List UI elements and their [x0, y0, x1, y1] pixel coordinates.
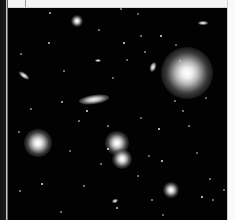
star — [144, 51, 146, 53]
star — [179, 60, 181, 62]
star-field — [8, 8, 227, 220]
star — [140, 35, 142, 37]
star — [116, 207, 118, 209]
star — [123, 42, 125, 44]
star — [182, 110, 184, 112]
star-glow — [163, 182, 179, 198]
star — [30, 108, 32, 110]
star — [49, 12, 51, 14]
star — [175, 44, 177, 46]
galaxy — [111, 198, 118, 204]
top-margin — [0, 0, 228, 8]
star — [18, 131, 20, 133]
margin-divider — [25, 0, 26, 7]
bright-star — [161, 47, 213, 99]
star — [98, 29, 100, 31]
star — [107, 125, 109, 127]
galaxy — [95, 59, 101, 62]
galaxy — [79, 92, 110, 105]
star — [60, 211, 62, 213]
star — [140, 117, 142, 119]
image-frame — [0, 0, 235, 220]
star — [126, 59, 128, 61]
star — [112, 77, 114, 79]
star — [48, 42, 50, 44]
star — [41, 183, 43, 185]
star — [196, 152, 198, 154]
star — [160, 35, 162, 37]
star — [61, 101, 63, 103]
star — [161, 160, 163, 162]
star — [151, 199, 153, 201]
star — [205, 97, 207, 99]
star — [86, 110, 88, 112]
star — [188, 125, 190, 127]
star — [174, 100, 176, 102]
star-glow — [112, 149, 132, 169]
star — [107, 148, 109, 150]
star-glow — [71, 15, 83, 27]
star — [83, 185, 85, 187]
right-margin — [227, 0, 235, 220]
star — [223, 189, 225, 191]
star — [78, 120, 80, 122]
galaxy — [198, 21, 208, 25]
star — [137, 13, 139, 15]
star — [100, 163, 102, 165]
star — [162, 214, 164, 216]
star — [19, 190, 21, 192]
star — [137, 175, 139, 177]
star — [209, 178, 211, 180]
star — [63, 70, 65, 72]
star — [148, 155, 150, 157]
star-glow — [24, 129, 52, 157]
galaxy — [18, 70, 31, 81]
star — [69, 150, 71, 152]
star — [201, 196, 203, 198]
left-edge — [0, 0, 8, 220]
star — [20, 53, 22, 55]
galaxy — [148, 61, 157, 72]
star — [120, 8, 122, 10]
star — [158, 128, 160, 130]
star — [212, 199, 214, 201]
